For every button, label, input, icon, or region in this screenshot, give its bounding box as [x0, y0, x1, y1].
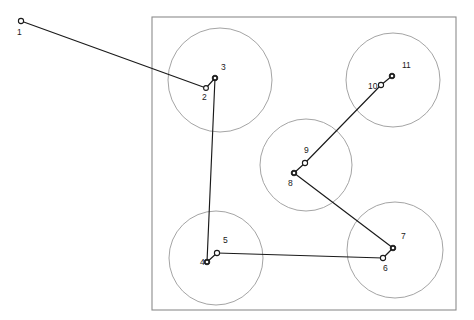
route-diagram-svg: 1234567891011: [0, 0, 474, 320]
route-node-1[interactable]: [18, 18, 23, 23]
node-label-6: 6: [383, 263, 388, 273]
node-label-10: 10: [368, 81, 378, 91]
node-label-11: 11: [402, 60, 411, 70]
route-node-9[interactable]: [302, 160, 307, 165]
route-node-core-11: [391, 75, 394, 78]
node-label-9: 9: [304, 145, 309, 155]
node-label-2: 2: [202, 92, 207, 102]
circle-top-right: [346, 33, 440, 127]
node-label-5: 5: [223, 235, 228, 245]
figure-canvas: 1234567891011: [0, 0, 474, 320]
route-node-5[interactable]: [214, 250, 219, 255]
route-node-10[interactable]: [378, 82, 383, 87]
node-label-4: 4: [200, 257, 205, 267]
route-node-core-3: [214, 77, 217, 80]
route-edge-3-4: [207, 78, 215, 262]
route-edge-9-10: [305, 85, 381, 163]
node-label-3: 3: [221, 62, 226, 72]
route-node-core-8: [293, 172, 296, 175]
circle-bottom-left: [169, 211, 263, 305]
node-label-7: 7: [401, 231, 406, 241]
node-label-8: 8: [288, 178, 293, 188]
route-node-6[interactable]: [380, 255, 385, 260]
route-edge-1-2: [21, 21, 206, 88]
route-node-core-4: [206, 261, 209, 264]
route-node-2[interactable]: [204, 86, 209, 91]
route-nodes-group: [18, 18, 395, 264]
route-node-core-7: [392, 247, 395, 250]
node-label-1: 1: [17, 27, 22, 37]
node-labels-group: 1234567891011: [17, 27, 411, 273]
route-edge-5-6: [217, 253, 383, 258]
route-edges-group: [21, 21, 393, 262]
